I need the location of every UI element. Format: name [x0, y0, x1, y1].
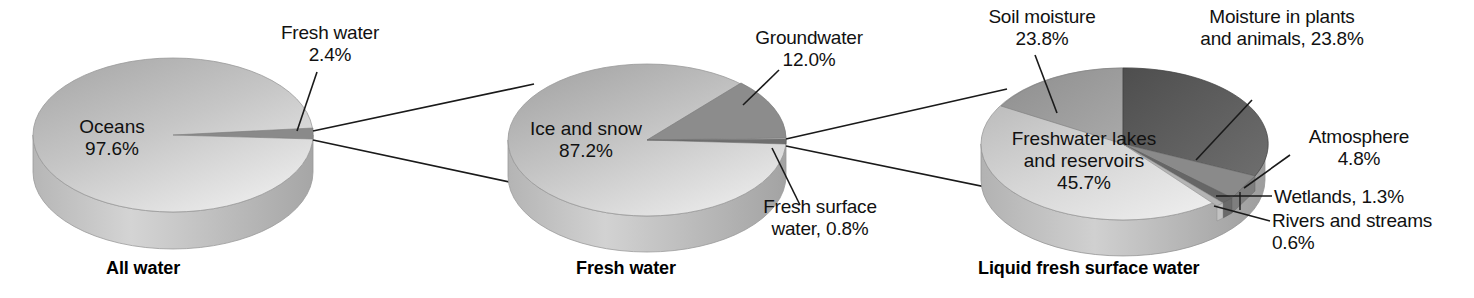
- pie2-caption: Fresh water: [576, 258, 676, 279]
- pie3-callout-wetlands: Wetlands, 1.3%: [1274, 186, 1464, 208]
- pie2-label-ice-and-snow: Ice and snow 87.2%: [502, 118, 670, 162]
- pie3-callout-atmosphere: Atmosphere 4.8%: [1284, 126, 1434, 170]
- pie1-caption: All water: [106, 258, 180, 279]
- pie3-callout-moisture-plants-animals: Moisture in plants and animals, 23.8%: [1176, 6, 1388, 50]
- pie3-label-freshwater-lakes: Freshwater lakes and reservoirs 45.7%: [988, 128, 1180, 194]
- pie1-label-oceans: Oceans 97.6%: [52, 116, 172, 160]
- pie3-rivers-side: [1217, 203, 1223, 221]
- pie3-caption: Liquid fresh surface water: [978, 258, 1199, 279]
- pie3-callout-soil-moisture: Soil moisture 23.8%: [962, 6, 1122, 50]
- pie2-callout-groundwater: Groundwater 12.0%: [724, 27, 894, 71]
- pie3-callout-rivers-and-streams: Rivers and streams 0.6%: [1272, 210, 1472, 254]
- figure-canvas: Oceans 97.6% Fresh water 2.4% All water …: [0, 0, 1474, 298]
- pie2-callout-fresh-surface-water: Fresh surface water, 0.8%: [740, 196, 900, 240]
- pie1-callout-fresh-water: Fresh water 2.4%: [250, 22, 410, 66]
- connector-line-upper: [786, 89, 1007, 139]
- connector-line-upper: [313, 84, 534, 131]
